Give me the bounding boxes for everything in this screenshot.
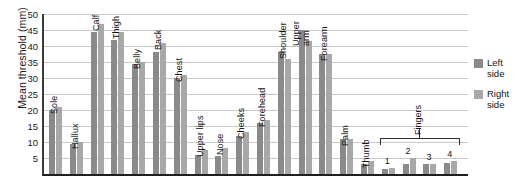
category-label-cheeks: Cheeks: [236, 108, 246, 139]
bar-left: [195, 155, 201, 174]
category-label-upper-lips: Upper lips: [195, 115, 205, 157]
y-tick-label-35: 35: [27, 57, 38, 68]
y-tick-label-45: 45: [27, 25, 38, 36]
bar-left: [257, 123, 263, 174]
bar-left: [49, 110, 55, 174]
bar-left: [132, 64, 138, 174]
bar-right: [410, 158, 416, 174]
bar-group: [132, 14, 145, 174]
bar-right: [139, 62, 145, 174]
bar-left: [111, 40, 117, 174]
bar-left: [403, 164, 409, 174]
bar-left: [299, 30, 305, 174]
category-label-thigh: Thigh: [111, 16, 121, 39]
bar-group: [91, 14, 104, 174]
bar-chart: Mean threshold (mm) 5101520253035404550 …: [0, 0, 523, 187]
bar-right: [160, 43, 166, 174]
legend-item-left: Leftside: [474, 58, 523, 79]
bar-left: [278, 52, 284, 174]
bar-right: [451, 161, 457, 174]
category-label-nose: Nose: [215, 134, 225, 155]
y-tick-label-15: 15: [27, 121, 38, 132]
bar-group: [70, 14, 83, 174]
legend-label: Leftside: [487, 58, 504, 79]
category-label-sole: Sole: [49, 95, 59, 113]
bar-left: [91, 32, 97, 174]
category-label-hallux: Hallux: [70, 123, 80, 149]
bar-left: [423, 164, 429, 174]
plot-area: SoleHalluxCalfThighBellyBackChestUpper l…: [42, 14, 468, 176]
category-label-shoulder: Shoulder: [278, 23, 288, 60]
bar-group: [49, 14, 62, 174]
legend-label: Rightside: [487, 89, 509, 110]
legend-swatch-right: [474, 90, 483, 99]
chart-legend: LeftsideRightside: [474, 58, 523, 120]
y-tick-label-30: 30: [27, 73, 38, 84]
y-tick-label-50: 50: [27, 9, 38, 20]
bar-group: [382, 14, 395, 174]
y-tick-label-10: 10: [27, 137, 38, 148]
bar-right: [264, 120, 270, 174]
bar-right: [389, 168, 395, 174]
y-tick-label-20: 20: [27, 105, 38, 116]
category-label-palm: Palm: [340, 125, 350, 146]
bar-right: [118, 32, 124, 174]
bar-left: [236, 136, 242, 174]
y-tick-label-25: 25: [27, 89, 38, 100]
bar-group: [236, 14, 249, 174]
bar-right: [326, 54, 332, 174]
category-label-1: 1: [385, 156, 390, 166]
y-axis-tick-labels: 5101520253035404550: [0, 14, 42, 174]
category-label-2: 2: [406, 146, 411, 156]
bar-right: [285, 59, 291, 174]
y-tick-label-40: 40: [27, 41, 38, 52]
category-label-thumb: Thumb: [361, 140, 371, 169]
legend-swatch-left: [474, 59, 483, 68]
bar-right: [306, 41, 312, 174]
bar-right: [98, 24, 104, 174]
bar-right: [56, 107, 62, 174]
bar-left: [444, 163, 450, 174]
fingers-bracket: [380, 138, 460, 145]
bar-left: [215, 156, 221, 174]
bar-right: [181, 75, 187, 174]
bar-left: [174, 78, 180, 174]
category-label-3: 3: [426, 152, 431, 162]
bar-group: [174, 14, 187, 174]
category-label-forearm: Forearm: [319, 26, 329, 61]
bar-group: [423, 14, 436, 174]
bar-group: [340, 14, 353, 174]
y-tick-label-5: 5: [33, 153, 38, 164]
category-label-calf: Calf: [91, 14, 101, 30]
category-label-back: Back: [153, 29, 163, 49]
category-label-4: 4: [447, 149, 452, 159]
bar-right: [430, 164, 436, 174]
bar-left: [382, 169, 388, 174]
bars-layer: SoleHalluxCalfThighBellyBackChestUpper l…: [44, 14, 468, 174]
bar-left: [153, 52, 159, 174]
legend-item-right: Rightside: [474, 89, 523, 110]
category-label-forehead: Forehead: [257, 87, 267, 126]
category-label-upper-arm: Upperarm: [292, 21, 311, 46]
fingers-label: Fingers: [413, 105, 423, 135]
category-label-chest: Chest: [174, 58, 184, 82]
category-label-belly: Belly: [132, 49, 142, 69]
bar-left: [319, 54, 325, 174]
